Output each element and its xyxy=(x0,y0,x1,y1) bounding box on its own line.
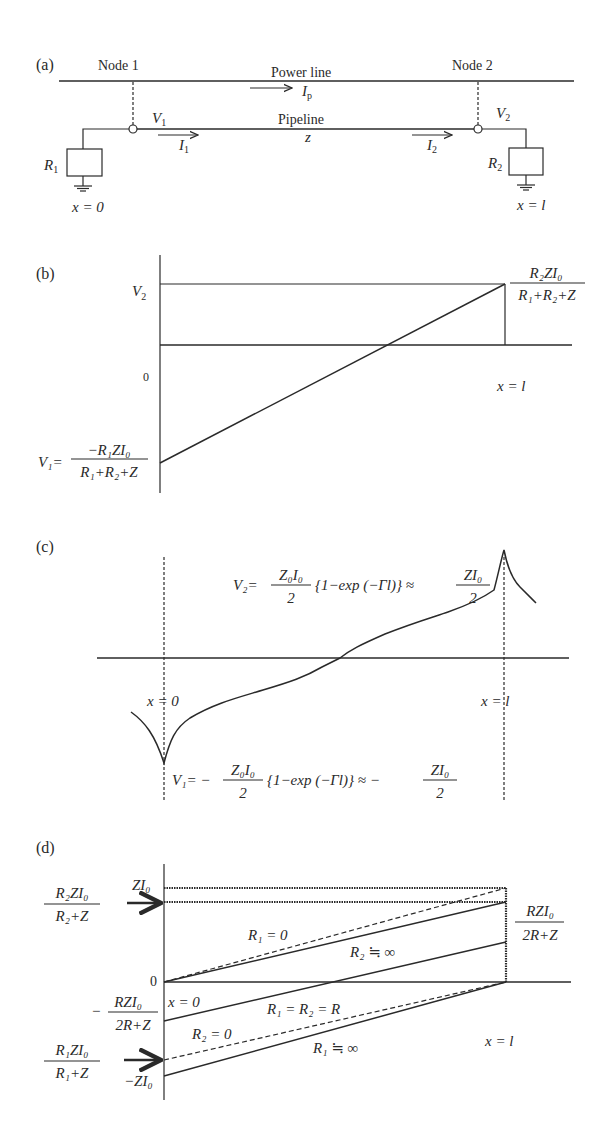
svg-text:2R+Z: 2R+Z xyxy=(115,1017,151,1033)
panel-c-chart: (c) x = 0 x = l V₂= Z₀I₀ 2 {1−exp (−Γl)}… xyxy=(36,538,569,802)
svg-text:ZI₀: ZI₀ xyxy=(431,762,450,778)
svg-text:{1−exp (−Γl)} ≈ −: {1−exp (−Γl)} ≈ − xyxy=(267,772,380,789)
xl-label: x = l xyxy=(516,197,545,213)
right-fraction: RZI₀ 2R+Z xyxy=(515,903,564,943)
node-2-circle-icon xyxy=(474,125,482,133)
minus-zi0-label: −ZI₀ xyxy=(124,1073,153,1089)
curve-label-r1-zero: R₁ = 0 xyxy=(247,927,288,943)
ground-1-icon xyxy=(74,176,92,191)
resistor-2-box xyxy=(509,148,543,175)
curve-label-r1-equals-r2: R₁ = R₂ = R xyxy=(266,1001,340,1017)
svg-text:R₂ZI₀: R₂ZI₀ xyxy=(529,265,563,281)
curve-r2-infinite xyxy=(164,902,506,982)
panel-c-label: (c) xyxy=(36,538,54,556)
pipeline-right-lead xyxy=(482,129,526,148)
curve-label-r2-zero: R₂ = 0 xyxy=(191,1026,232,1042)
zero-label: 0 xyxy=(150,974,157,989)
v1-fraction: V₁= −R₁ZI₀ R₁+R₂+Z xyxy=(38,442,148,480)
svg-text:ZI₀: ZI₀ xyxy=(464,567,483,583)
power-current-label: Ip xyxy=(301,83,312,101)
panel-a-circuit: (a) Node 1 Node 2 Power line Ip Pipeline… xyxy=(36,56,574,215)
r1-label: R1 xyxy=(43,157,58,175)
left-mid-fraction: − RZI₀ 2R+Z xyxy=(91,994,158,1033)
i2-label: I2 xyxy=(426,137,437,155)
x0-label: x = 0 xyxy=(167,994,200,1010)
svg-text:V₂=: V₂= xyxy=(233,577,258,593)
svg-text:RZI₀: RZI₀ xyxy=(113,994,142,1010)
left-upper-fraction: R₂ZI₀ R₂+Z xyxy=(44,885,100,924)
figure: (a) Node 1 Node 2 Power line Ip Pipeline… xyxy=(0,0,607,1126)
svg-text:R₂+Z: R₂+Z xyxy=(55,908,89,924)
node-1-circle-icon xyxy=(129,125,137,133)
v2-fraction: R₂ZI₀ R₁+R₂+Z xyxy=(510,265,585,303)
v2-formula: V₂= Z₀I₀ 2 {1−exp (−Γl)} ≈ ZI₀ 2 xyxy=(233,567,490,606)
v1-label: V1 xyxy=(152,110,166,128)
xl-label: x = l xyxy=(484,1033,513,1049)
svg-text:R₁+R₂+Z: R₁+R₂+Z xyxy=(79,464,138,480)
x-end-label: x = l xyxy=(496,378,525,394)
svg-text:R₁ZI₀: R₁ZI₀ xyxy=(55,1042,89,1058)
svg-text:V₁= −: V₁= − xyxy=(172,772,210,788)
ground-2-icon xyxy=(517,175,535,190)
v2-label: V2 xyxy=(496,105,510,123)
panel-b-chart: (b) V2 0 x = l R₂ZI₀ R₁+R₂+Z V₁= −R₁ZI₀ … xyxy=(36,255,585,493)
svg-text:RZI₀: RZI₀ xyxy=(525,903,554,919)
panel-a-label: (a) xyxy=(36,56,54,74)
panel-d-label: (d) xyxy=(36,839,55,857)
x0-label: x = 0 xyxy=(71,199,104,215)
svg-text:−R₁ZI₀: −R₁ZI₀ xyxy=(87,442,130,458)
xl-label: x = l xyxy=(480,693,509,709)
power-line-label: Power line xyxy=(271,65,331,80)
panel-b-label: (b) xyxy=(36,265,55,283)
svg-text:−: − xyxy=(91,1003,101,1019)
svg-text:R₁+Z: R₁+Z xyxy=(55,1065,89,1081)
curve-label-r2-infinite: R₂ ≒ ∞ xyxy=(349,944,395,960)
svg-text:2R+Z: 2R+Z xyxy=(522,927,558,943)
svg-text:Z₀I₀: Z₀I₀ xyxy=(279,567,303,583)
v2-axis-label: V2 xyxy=(132,283,146,302)
x0-label: x = 0 xyxy=(146,693,179,709)
i1-label: I1 xyxy=(178,137,189,155)
left-lower-fraction: R₁ZI₀ R₁+Z xyxy=(44,1042,100,1081)
panel-d-chart: (d) ZI₀ −ZI₀ 0 x = 0 x = l R₂ZI₀ R₂+Z R₁… xyxy=(36,839,571,1100)
curve-label-r1-infinite: R₁ ≒ ∞ xyxy=(312,1040,358,1056)
r2-label: R2 xyxy=(487,155,502,173)
impedance-label: z xyxy=(304,129,311,145)
svg-text:2: 2 xyxy=(239,785,247,801)
voltage-profile-line xyxy=(160,284,505,463)
node-1-label: Node 1 xyxy=(98,58,139,73)
resistor-1-box xyxy=(67,149,102,176)
zi0-label: ZI₀ xyxy=(132,877,151,893)
svg-text:R₁+R₂+Z: R₁+R₂+Z xyxy=(517,287,576,303)
svg-text:R₂ZI₀: R₂ZI₀ xyxy=(55,885,89,901)
zero-label: 0 xyxy=(143,370,149,384)
svg-text:{1−exp (−Γl)} ≈: {1−exp (−Γl)} ≈ xyxy=(315,577,414,594)
v1-formula: V₁= − Z₀I₀ 2 {1−exp (−Γl)} ≈ − ZI₀ 2 xyxy=(172,762,457,801)
svg-text:V₁=: V₁= xyxy=(38,454,63,470)
svg-text:2: 2 xyxy=(287,590,295,606)
svg-text:Z₀I₀: Z₀I₀ xyxy=(231,762,255,778)
svg-text:2: 2 xyxy=(436,785,444,801)
node-2-label: Node 2 xyxy=(452,58,493,73)
pipeline-label: Pipeline xyxy=(278,112,324,127)
svg-text:2: 2 xyxy=(469,590,477,606)
pipeline-left-lead xyxy=(83,129,129,149)
